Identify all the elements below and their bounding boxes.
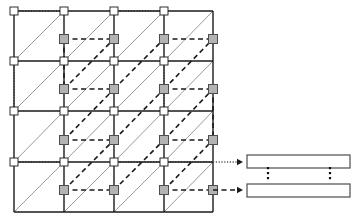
cell-center-marker <box>209 85 218 94</box>
vertical-ellipsis-right-dot <box>329 177 331 179</box>
grid-corner-marker <box>10 107 18 115</box>
cell-center-marker <box>160 35 169 44</box>
cell-center-marker <box>110 186 119 195</box>
cell-center-marker <box>160 136 169 145</box>
grid-corner-marker <box>110 158 118 166</box>
cell-center-marker <box>209 136 218 145</box>
cell-center-marker <box>110 35 119 44</box>
grid-corner-marker <box>10 158 18 166</box>
grid-corner-marker <box>160 107 168 115</box>
vertical-ellipsis-left-dot <box>267 167 269 169</box>
vertical-ellipsis-left-dot <box>267 172 269 174</box>
grid-corner-marker <box>10 57 18 65</box>
output-bar-top <box>247 155 350 168</box>
figure-root <box>0 0 360 224</box>
cell-center-marker <box>160 85 169 94</box>
vertical-ellipsis-right-dot <box>329 172 331 174</box>
grid-corner-marker <box>160 7 168 15</box>
grid-corner-marker <box>160 57 168 65</box>
vertical-ellipsis-right-dot <box>329 167 331 169</box>
grid-corner-marker <box>160 158 168 166</box>
grid-corner-marker <box>110 57 118 65</box>
cell-center-marker <box>160 186 169 195</box>
cell-center-marker <box>60 136 69 145</box>
cell-center-marker <box>110 85 119 94</box>
cell-center-marker <box>209 35 218 44</box>
grid-corner-marker <box>60 158 68 166</box>
grid-corner-marker <box>110 107 118 115</box>
grid-corner-marker <box>60 57 68 65</box>
grid-corner-marker <box>60 7 68 15</box>
vertical-ellipsis-left-dot <box>267 177 269 179</box>
grid-corner-marker <box>110 7 118 15</box>
grid-corner-marker <box>10 7 18 15</box>
cell-center-marker <box>60 35 69 44</box>
cell-center-marker <box>60 186 69 195</box>
cell-center-marker <box>110 136 119 145</box>
output-bar-bottom <box>247 184 350 197</box>
mesh-connectivity-diagram <box>0 0 360 224</box>
grid-corner-marker <box>60 107 68 115</box>
cell-center-marker <box>60 85 69 94</box>
